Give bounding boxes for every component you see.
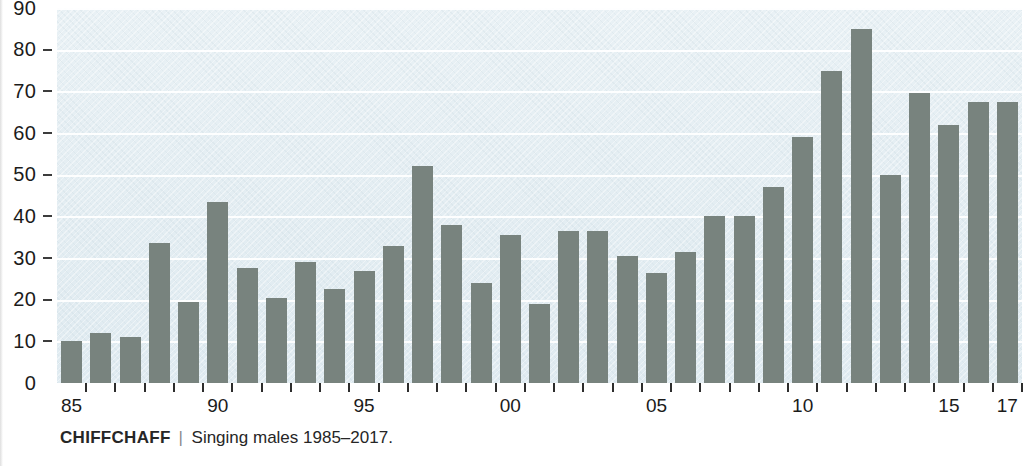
x-axis-tick-mark: [670, 383, 672, 392]
y-axis-tick-dash: [43, 174, 52, 176]
bar: [880, 175, 901, 383]
y-axis-tick-label: 60: [13, 122, 36, 145]
bar: [851, 29, 872, 383]
bar: [968, 102, 989, 383]
bar: [704, 216, 725, 383]
y-axis-tick-label: 50: [13, 163, 36, 186]
bar: [997, 102, 1018, 383]
y-axis-tick-label: 40: [13, 205, 36, 228]
y-axis-tick: 20: [13, 290, 57, 310]
y-axis-tick-label: 10: [13, 330, 36, 353]
x-axis-tick-mark: [729, 383, 731, 392]
bar: [763, 187, 784, 383]
y-axis-tick: 50: [13, 165, 57, 185]
x-axis-tick-mark: [787, 383, 789, 392]
x-axis-tick-mark: [553, 383, 555, 392]
caption-species-name: CHIFFCHAFF: [60, 428, 171, 447]
bar: [617, 256, 638, 383]
x-axis-tick-mark: [992, 383, 994, 392]
y-axis-tick-dash: [43, 257, 52, 259]
x-axis-tick-mark: [261, 383, 263, 392]
x-axis-tick-mark: [348, 383, 350, 392]
bar: [412, 166, 433, 383]
x-axis-tick-mark: [524, 383, 526, 392]
bar: [383, 246, 404, 384]
caption-description: Singing males 1985–2017.: [192, 428, 393, 447]
bar: [266, 298, 287, 383]
bar: [646, 273, 667, 383]
bar: [441, 225, 462, 383]
bar-series-singing-males: [57, 8, 1022, 383]
bar: [237, 268, 258, 383]
bar: [529, 304, 550, 383]
bar: [675, 252, 696, 383]
bar: [734, 216, 755, 383]
x-axis-tick-mark: [1021, 383, 1023, 392]
bar: [938, 125, 959, 383]
bar: [792, 137, 813, 383]
x-axis-tick-mark: [436, 383, 438, 392]
y-axis-tick-label: 70: [13, 80, 36, 103]
x-axis-tick-mark: [319, 383, 321, 392]
x-axis-tick-mark: [904, 383, 906, 392]
y-axis-tick: 80: [13, 40, 57, 60]
x-axis-tick-label: 17: [997, 395, 1018, 417]
x-axis-tick-mark: [173, 383, 175, 392]
x-axis-tick-mark: [202, 383, 204, 392]
bar: [149, 243, 170, 383]
chart-caption: CHIFFCHAFF | Singing males 1985–2017.: [60, 428, 393, 448]
y-axis-tick-dash: [43, 132, 52, 134]
y-axis-tick: 70: [13, 81, 57, 101]
bar: [558, 231, 579, 383]
x-axis-tick-label: 05: [646, 395, 667, 417]
bar: [471, 283, 492, 383]
x-axis-tick-mark: [933, 383, 935, 392]
bar: [120, 337, 141, 383]
bar: [295, 262, 316, 383]
y-axis-tick-dash: [43, 299, 52, 301]
bar: [207, 202, 228, 383]
y-axis-tick-label: 80: [13, 38, 36, 61]
x-axis-tick-mark: [144, 383, 146, 392]
bar: [821, 71, 842, 384]
x-axis-tick-mark: [758, 383, 760, 392]
y-axis-tick: 30: [13, 248, 57, 268]
x-axis-tick-label: 15: [938, 395, 959, 417]
x-axis-tick-mark: [114, 383, 116, 392]
x-axis-tick-mark: [641, 383, 643, 392]
x-axis-tick-mark: [378, 383, 380, 392]
x-axis-tick-mark: [875, 383, 877, 392]
x-axis-tick-mark: [612, 383, 614, 392]
x-axis-tick-mark: [85, 383, 87, 392]
y-axis-tick: 0: [25, 373, 57, 393]
y-axis-tick: 40: [13, 206, 57, 226]
y-axis-tick-dash: [43, 215, 52, 217]
bar: [178, 302, 199, 383]
caption-separator: |: [178, 428, 182, 447]
x-axis-tick-label: 10: [792, 395, 813, 417]
x-axis-tick-label: 85: [61, 395, 82, 417]
bar: [90, 333, 111, 383]
y-axis-tick-label: 90: [13, 0, 36, 20]
bar: [909, 93, 930, 383]
x-axis-tick-mark: [816, 383, 818, 392]
bar: [500, 235, 521, 383]
x-axis-tick-mark: [290, 383, 292, 392]
y-axis-tick-label: 0: [25, 372, 36, 395]
bar: [61, 341, 82, 383]
bar: [324, 289, 345, 383]
y-axis-tick: 90: [13, 0, 57, 18]
chart-figure: 0102030405060708090 8590950005101517 CHI…: [0, 0, 1028, 466]
y-axis-tick-dash: [43, 7, 52, 9]
bar: [587, 231, 608, 383]
y-axis-tick-dash: [43, 49, 52, 51]
y-axis-tick-label: 20: [13, 288, 36, 311]
x-axis-tick-mark: [846, 383, 848, 392]
x-axis-tick-label: 95: [353, 395, 374, 417]
y-axis-tick: 10: [13, 331, 57, 351]
x-axis-tick-label: 00: [500, 395, 521, 417]
bar: [354, 271, 375, 384]
x-axis-tick-mark: [963, 383, 965, 392]
y-axis-tick-label: 30: [13, 247, 36, 270]
y-axis-tick-dash: [43, 90, 52, 92]
